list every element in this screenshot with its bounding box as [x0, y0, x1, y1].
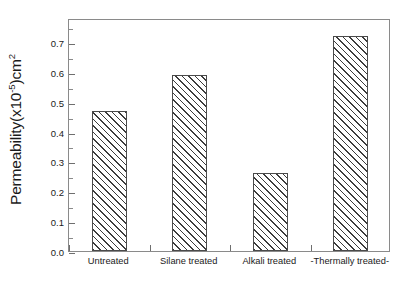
- y-axis-major-tick: [69, 104, 75, 105]
- y-axis-tick-label: 0.3: [51, 157, 64, 168]
- x-axis-tick-label: Alkali treated: [242, 256, 296, 266]
- y-axis-tick-label: 0.5: [51, 97, 64, 108]
- y-axis-label-container: Permeability(x10-5)cm2: [0, 0, 30, 260]
- x-axis-tick: [69, 245, 70, 251]
- y-axis-minor-tick: [69, 208, 73, 209]
- y-axis-major-tick: [69, 74, 75, 75]
- y-axis-label-suffix-exponent: 2: [5, 55, 16, 60]
- x-axis-tick-labels: UntreatedSilane treatedAlkali treated-Th…: [68, 256, 390, 276]
- x-axis-tick-label: Untreated: [88, 256, 129, 266]
- bar: [172, 75, 207, 251]
- y-axis-tick-label: 0.7: [51, 37, 64, 48]
- y-axis-tick-label: 0.4: [51, 127, 64, 138]
- x-axis-tick-label: Silane treated: [160, 256, 217, 266]
- y-axis-minor-tick: [69, 148, 73, 149]
- y-axis-minor-tick: [69, 29, 73, 30]
- x-axis-tick: [230, 245, 231, 251]
- y-axis-major-tick: [69, 44, 75, 45]
- chart-figure: Permeability(x10-5)cm2 0.00.10.20.30.40.…: [0, 0, 404, 287]
- x-axis-tick: [150, 245, 151, 251]
- y-axis-minor-tick: [69, 89, 73, 90]
- y-axis-major-tick: [69, 193, 75, 194]
- y-axis-minor-tick: [69, 178, 73, 179]
- y-axis-minor-tick: [69, 119, 73, 120]
- plot-area: [68, 19, 390, 252]
- bar: [333, 36, 368, 251]
- y-axis-tick-label: 0.1: [51, 217, 64, 228]
- y-axis-label-exponent: -5: [5, 85, 16, 93]
- bar: [92, 111, 127, 251]
- y-axis-tick-label: 0.6: [51, 67, 64, 78]
- x-axis-tick-label: -Thermally treated-: [310, 256, 389, 266]
- y-axis-major-tick: [69, 163, 75, 164]
- y-axis-minor-tick: [69, 59, 73, 60]
- y-axis-major-tick: [69, 134, 75, 135]
- y-axis-label: Permeability(x10-5)cm2: [5, 55, 24, 206]
- y-axis-major-tick: [69, 253, 75, 254]
- y-axis-label-prefix: Permeability(x10: [7, 93, 24, 205]
- y-axis-major-tick: [69, 223, 75, 224]
- y-axis-tick-label: 0.0: [51, 247, 64, 258]
- plot-inner: [69, 20, 389, 251]
- x-axis-tick: [311, 245, 312, 251]
- y-axis-label-suffix: )cm: [7, 60, 24, 85]
- y-axis-minor-tick: [69, 238, 73, 239]
- y-axis-tick-labels: 0.00.10.20.30.40.50.60.7: [34, 19, 64, 252]
- bar: [253, 173, 288, 251]
- y-axis-tick-label: 0.2: [51, 187, 64, 198]
